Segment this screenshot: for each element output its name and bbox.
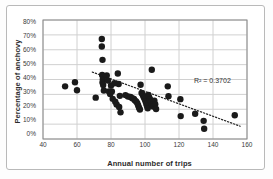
plot-canvas	[0, 0, 273, 179]
data-point	[93, 94, 99, 100]
data-point	[137, 106, 143, 112]
data-point	[115, 81, 121, 87]
data-point	[117, 93, 123, 99]
data-point	[200, 118, 206, 124]
data-point	[165, 93, 171, 99]
scatter-chart: Percentage of anchovy Annual number of t…	[0, 0, 273, 179]
data-point	[99, 57, 105, 63]
data-point	[62, 83, 68, 89]
data-point	[116, 104, 122, 110]
data-point	[74, 87, 80, 93]
r-squared-annotation: R² = 0.3702	[194, 77, 231, 84]
data-point	[178, 113, 184, 119]
data-point	[99, 36, 105, 42]
data-point	[115, 70, 121, 76]
figure-container: Percentage of anchovy Annual number of t…	[0, 0, 273, 179]
data-point	[117, 109, 123, 115]
data-point	[232, 112, 238, 118]
data-point	[153, 106, 159, 112]
data-point	[100, 82, 106, 88]
data-point	[201, 126, 207, 132]
data-point	[109, 88, 115, 94]
data-point	[165, 83, 171, 89]
data-point	[192, 111, 198, 117]
data-point	[137, 82, 143, 88]
data-point	[177, 96, 183, 102]
data-point	[149, 66, 155, 72]
data-point	[99, 43, 105, 49]
data-point	[72, 79, 78, 85]
